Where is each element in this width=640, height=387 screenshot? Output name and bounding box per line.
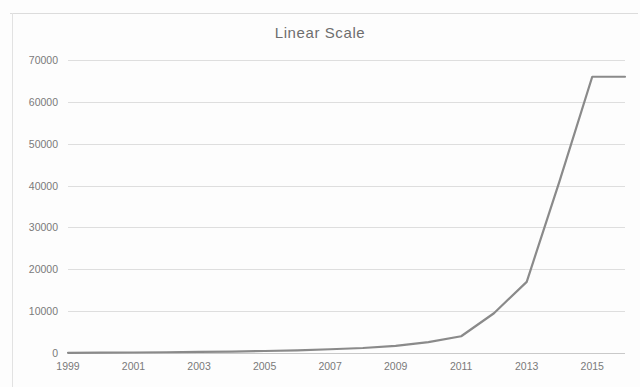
data-series-line xyxy=(68,60,625,353)
y-tick-label: 40000 xyxy=(0,180,58,192)
x-tick-label: 1999 xyxy=(38,360,98,372)
series-polyline xyxy=(68,77,625,353)
x-tick-label: 2007 xyxy=(300,360,360,372)
x-tick-label: 2005 xyxy=(235,360,295,372)
y-tick-label: 0 xyxy=(0,347,58,359)
y-tick-label: 30000 xyxy=(0,221,58,233)
y-tick-label: 50000 xyxy=(0,138,58,150)
x-tick-label: 2009 xyxy=(366,360,426,372)
page-edge-left xyxy=(12,13,13,387)
plot-area xyxy=(68,60,625,353)
x-tick-label: 2001 xyxy=(104,360,164,372)
y-tick-label: 70000 xyxy=(0,54,58,66)
x-tick-label: 2013 xyxy=(497,360,557,372)
page-edge-top xyxy=(10,13,638,14)
x-tick-label: 2011 xyxy=(431,360,491,372)
y-tick-label: 20000 xyxy=(0,263,58,275)
x-tick-label: 2015 xyxy=(562,360,622,372)
y-tick-label: 60000 xyxy=(0,96,58,108)
chart-figure: Linear Scale 010000200003000040000500006… xyxy=(0,0,640,387)
x-tick-label: 2003 xyxy=(169,360,229,372)
chart-title: Linear Scale xyxy=(0,24,640,41)
y-tick-label: 10000 xyxy=(0,305,58,317)
